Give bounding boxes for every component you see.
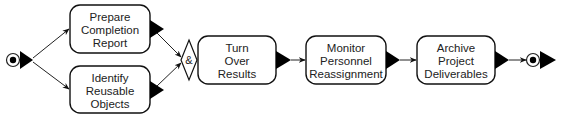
- and-junction: &: [181, 40, 197, 80]
- activity-label-line: Over: [225, 55, 250, 67]
- end-output-triangle: [540, 51, 556, 69]
- activity-label-line: Results: [218, 68, 257, 80]
- activity-label-line: Objects: [91, 98, 130, 110]
- process-diagram: Prepare Completion Report Identify Reusa…: [0, 0, 579, 117]
- edge-identify-to-junction: [157, 63, 181, 86]
- edge-start-to-prepare: [33, 29, 69, 58]
- activity-monitor-personnel-reassignment: Monitor Personnel Reassignment: [306, 36, 400, 84]
- edge-start-to-identify: [33, 62, 69, 89]
- activity-label-line: Reusable: [86, 85, 135, 97]
- activity-label-line: Report: [93, 37, 128, 49]
- activity-label-line: Deliverables: [424, 68, 488, 80]
- activity-label-line: Prepare: [90, 11, 131, 23]
- activity-turn-over-results: Turn Over Results: [198, 36, 291, 84]
- activity-archive-project-deliverables: Archive Project Deliverables: [417, 36, 509, 84]
- junction-symbol: &: [185, 54, 193, 66]
- output-triangle: [150, 20, 164, 38]
- output-triangle: [150, 81, 164, 99]
- output-triangle: [495, 51, 509, 69]
- activity-label-line: Identify: [91, 72, 128, 84]
- output-triangle: [386, 51, 400, 69]
- output-triangle: [276, 51, 291, 69]
- activity-label-line: Archive: [437, 42, 475, 54]
- activity-label-line: Personnel: [320, 55, 372, 67]
- activity-label-line: Project: [438, 55, 475, 67]
- activity-identify-reusable-objects: Identify Reusable Objects: [70, 66, 164, 113]
- activity-label-line: Completion: [81, 24, 139, 36]
- activity-prepare-completion-report: Prepare Completion Report: [70, 5, 164, 53]
- end-node: [527, 51, 557, 69]
- activity-label-line: Turn: [225, 42, 248, 54]
- start-output-triangle: [20, 51, 33, 69]
- activity-label-line: Reassignment: [309, 68, 383, 80]
- start-node: [7, 51, 34, 69]
- edge-prepare-to-junction: [157, 33, 181, 57]
- activity-label-line: Monitor: [327, 42, 366, 54]
